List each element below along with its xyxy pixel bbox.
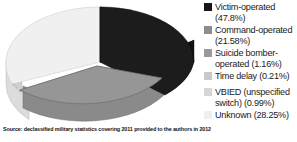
legend-label-victim-operated: Victim-operated (47.8%) [215, 1, 275, 23]
chart-legend: Victim-operated (47.8%) Command-operated… [201, 0, 297, 142]
legend-swatch-time-delay [204, 72, 212, 80]
legend-item-command-operated[interactable]: Command-operated (21.58%) [204, 24, 296, 46]
legend-label-vbied: VBIED (unspecified switch) (0.99%) [215, 86, 290, 108]
legend-label-time-delay: Time delay (0.21%) [215, 70, 289, 81]
pie-svg [0, 0, 200, 122]
legend-label-suicide-bomber-operated: Suicide bomber- operated (1.16%) [215, 47, 282, 69]
legend-swatch-victim-operated [204, 3, 212, 11]
legend-label-command-operated: Command-operated (21.58%) [215, 24, 292, 46]
legend-swatch-suicide-bomber-operated [204, 49, 212, 57]
source-note: Source: declassified military statistics… [3, 126, 211, 133]
legend-item-suicide-bomber-operated[interactable]: Suicide bomber- operated (1.16%) [204, 47, 284, 69]
legend-swatch-unknown [204, 111, 212, 119]
legend-swatch-command-operated [204, 26, 212, 34]
pie-top-face [6, 7, 194, 104]
legend-item-unknown[interactable]: Unknown (28.25%) [204, 109, 292, 120]
legend-item-vbied[interactable]: VBIED (unspecified switch) (0.99%) [204, 86, 293, 108]
legend-item-time-delay[interactable]: Time delay (0.21%) [204, 70, 293, 81]
legend-item-victim-operated[interactable]: Victim-operated (47.8%) [204, 1, 278, 23]
pie-chart-figure: Victim-operated (47.8%) Command-operated… [0, 0, 297, 142]
legend-swatch-vbied [204, 88, 212, 96]
legend-label-unknown: Unknown (28.25%) [215, 109, 289, 120]
pie-chart-graphic [0, 0, 200, 122]
